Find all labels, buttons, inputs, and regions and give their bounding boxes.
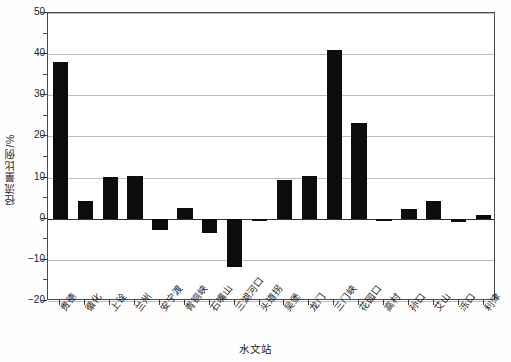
bar [227, 219, 242, 268]
bar [277, 180, 292, 219]
plot-area [47, 12, 495, 300]
bar [351, 123, 366, 218]
bar [476, 215, 491, 219]
gridline [48, 136, 494, 137]
bar [53, 62, 68, 218]
gridline [48, 95, 494, 96]
y-tick-label: 40 [15, 47, 45, 58]
y-tick-label: 50 [15, 6, 45, 17]
y-tick-label: 0 [15, 212, 45, 223]
bar [103, 177, 118, 219]
gridline [48, 54, 494, 55]
bar [426, 201, 441, 219]
zero-line [48, 219, 494, 220]
bar [376, 219, 391, 221]
bar [202, 219, 217, 233]
bar [177, 208, 192, 218]
bar [327, 50, 342, 219]
chart-figure: 径流量比例/% −20−1001020304050 贵德循化上诠兰州安宁渡青铜峡… [0, 0, 511, 362]
gridline [48, 13, 494, 14]
y-tick-label: 10 [15, 171, 45, 182]
bar [127, 176, 142, 218]
bar [78, 201, 93, 219]
x-axis-title: 水文站 [0, 341, 511, 356]
bar [401, 209, 416, 219]
bar [252, 219, 267, 221]
y-tick-label: 20 [15, 129, 45, 140]
y-tick-label: 30 [15, 88, 45, 99]
y-tick-label: −10 [15, 253, 45, 264]
bar [152, 219, 167, 231]
bar [451, 219, 466, 222]
bar [302, 176, 317, 219]
gridline [48, 260, 494, 261]
y-tick-label: −20 [15, 294, 45, 305]
